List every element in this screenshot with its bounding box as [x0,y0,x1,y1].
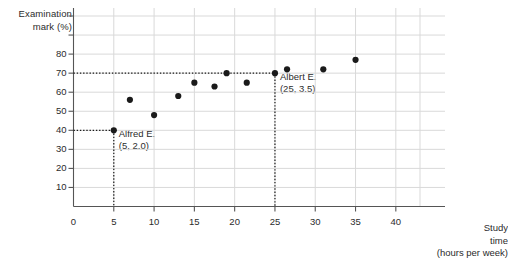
y-axis-tick-label: 10 [41,181,67,192]
data-point [151,112,157,118]
data-point [111,127,117,133]
x-axis-tick-label: 30 [303,216,327,227]
data-point [352,57,358,63]
y-axis-tick-label: 70 [41,67,67,78]
y-axis-tick-label: 20 [41,162,67,173]
y-axis-tick-label: 30 [41,143,67,154]
data-point [211,83,217,89]
x-axis-tick-label: 35 [344,216,368,227]
data-point [127,97,133,103]
data-point [284,66,290,72]
data-point [224,70,230,76]
data-point [244,80,250,86]
y-axis-tick-label: 50 [41,105,67,116]
x-axis-tick-label: 25 [263,216,287,227]
x-axis-tick-label: 20 [223,216,247,227]
y-axis-tick-label: 60 [41,86,67,97]
x-axis-tick-label: 0 [62,216,86,227]
data-point [175,93,181,99]
x-axis-tick-label: 10 [142,216,166,227]
data-point [191,80,197,86]
y-axis-tick-label: 40 [41,124,67,135]
y-axis-tick-label: 80 [41,48,67,59]
data-point [320,66,326,72]
data-point [272,70,278,76]
x-axis-tick-label: 15 [182,216,206,227]
x-axis-tick-label: 5 [102,216,126,227]
x-axis-tick-label: 40 [384,216,408,227]
